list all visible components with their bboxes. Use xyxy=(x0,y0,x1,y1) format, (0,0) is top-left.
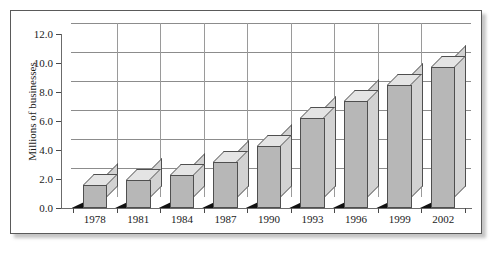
gridline-riser xyxy=(61,139,83,150)
bar-front-face xyxy=(431,67,455,208)
bar-front-face xyxy=(257,146,281,208)
x-axis-tick xyxy=(160,208,161,213)
y-axis-tick xyxy=(56,179,61,180)
gridline-riser xyxy=(61,23,83,34)
plot-area: 0.02.04.06.08.010.012.0 1978198119841987… xyxy=(61,24,472,209)
x-axis-tick-label-1993: 1993 xyxy=(302,214,324,225)
x-axis-tick xyxy=(465,208,466,213)
x-axis-tick-label-1990: 1990 xyxy=(258,214,280,225)
y-axis-tick-label: 6.0 xyxy=(39,116,53,127)
y-axis-tick xyxy=(56,34,61,35)
x-axis-tick xyxy=(291,208,292,213)
gridline xyxy=(71,52,471,53)
y-axis-tick xyxy=(56,150,61,151)
bar-1990[interactable] xyxy=(257,146,281,208)
y-axis-tick-label: 4.0 xyxy=(39,145,53,156)
bar-front-face xyxy=(387,85,411,208)
y-axis-tick xyxy=(56,121,61,122)
y-axis-tick-label: 12.0 xyxy=(34,29,53,40)
x-axis-tick-label-1981: 1981 xyxy=(127,214,149,225)
bar-side-face xyxy=(455,45,466,197)
x-axis-tick xyxy=(247,208,248,213)
x-axis-tick xyxy=(204,208,205,213)
bar-side-face xyxy=(238,140,249,197)
bar-1984[interactable] xyxy=(170,175,194,208)
x-axis-tick-label-1987: 1987 xyxy=(214,214,236,225)
x-axis-tick xyxy=(117,208,118,213)
bar-front-face xyxy=(83,185,107,208)
gridline-riser xyxy=(61,52,83,63)
x-axis-tick xyxy=(421,208,422,213)
bar-2002[interactable] xyxy=(431,67,455,208)
bar-front-face xyxy=(300,118,324,208)
gridline-riser xyxy=(61,168,83,179)
chart-figure-frame: Millions of businesses 0.02.04.06.08.010… xyxy=(10,10,482,234)
bar-1978[interactable] xyxy=(83,185,107,208)
x-axis-tick-label-2002: 2002 xyxy=(432,214,454,225)
x-axis-tick xyxy=(334,208,335,213)
x-axis-line xyxy=(61,208,472,209)
bar-1987[interactable] xyxy=(213,162,237,208)
x-axis-tick-label-1978: 1978 xyxy=(84,214,106,225)
x-axis-tick-label-1996: 1996 xyxy=(345,214,367,225)
y-axis-title: Millions of businesses xyxy=(25,24,39,199)
bar-1996[interactable] xyxy=(344,101,368,208)
bar-1999[interactable] xyxy=(387,85,411,208)
y-axis-tick-label: 8.0 xyxy=(39,87,53,98)
y-axis-tick xyxy=(56,208,61,209)
bar-1981[interactable] xyxy=(126,180,150,208)
bar-front-face xyxy=(126,180,150,208)
x-axis-tick xyxy=(73,208,74,213)
gridline-riser xyxy=(61,110,83,121)
y-axis-tick-label: 2.0 xyxy=(39,174,53,185)
bar-1993[interactable] xyxy=(300,118,324,208)
y-axis-tick xyxy=(56,63,61,64)
bar-front-face xyxy=(170,175,194,208)
x-axis-tick-label-1984: 1984 xyxy=(171,214,193,225)
bar-front-face xyxy=(344,101,368,208)
bar-front-face xyxy=(213,162,237,208)
y-axis-tick-label: 10.0 xyxy=(34,58,53,69)
gridline xyxy=(71,23,471,24)
x-axis-tick-label-1999: 1999 xyxy=(389,214,411,225)
y-axis-tick-label: 0.0 xyxy=(39,203,53,214)
x-axis-tick xyxy=(378,208,379,213)
gridline-riser xyxy=(61,81,83,92)
y-axis-tick xyxy=(56,92,61,93)
